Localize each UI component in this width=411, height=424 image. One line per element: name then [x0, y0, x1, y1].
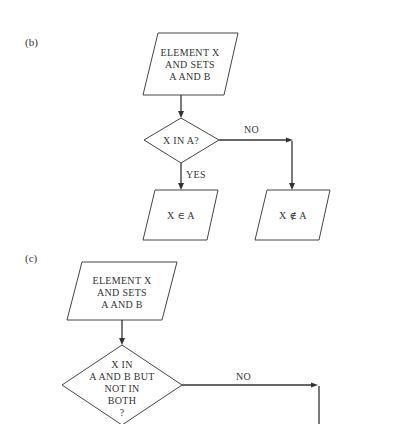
panel-b-yes-branch: YES [178, 163, 206, 190]
panel-c-decision-line-2: A AND B BUT [89, 371, 154, 382]
panel-c-input-line-2: AND SETS [97, 287, 147, 298]
panel-b-input-box: ELEMENT X AND SETS A AND B [143, 33, 238, 95]
arrowhead-icon [119, 338, 125, 345]
arrowhead-icon [311, 383, 318, 388]
panel-b-no-output: X ∉ A [255, 190, 330, 240]
panel-b-no-output-text: X ∉ A [279, 210, 307, 221]
panel-c-decision-line-4: BOTH [108, 395, 136, 406]
panel-b-input-line-1: ELEMENT X [161, 47, 220, 58]
panel-c-no-label: NO [236, 371, 251, 382]
panel-c-decision-line-1: X IN [111, 359, 132, 370]
panel-c-input-line-3: A AND B [101, 299, 143, 310]
arrowhead-icon [178, 183, 184, 190]
panel-c-no-branch: NO [182, 371, 319, 424]
panel-c-decision: X IN A AND B BUT NOT IN BOTH ? [62, 345, 182, 424]
panel-b-no-branch: NO [219, 124, 295, 190]
panel-b-decision-text: X IN A? [163, 135, 199, 146]
flowchart-canvas: (b) ELEMENT X AND SETS A AND B X IN A? N… [0, 0, 411, 424]
panel-b-yes-output: X ∈ A [143, 190, 218, 240]
panel-b-arrow-to-decision [178, 95, 184, 118]
panel-b-input-line-2: AND SETS [165, 59, 215, 70]
panel-b-yes-label: YES [186, 169, 206, 180]
arrowhead-icon [178, 111, 184, 118]
panel-c-decision-line-3: NOT IN [104, 383, 139, 394]
panel-b-no-label: NO [244, 124, 259, 135]
panel-b-input-line-3: A AND B [169, 71, 211, 82]
arrowhead-icon [289, 183, 295, 190]
panel-c-input-line-1: ELEMENT X [93, 275, 152, 286]
panel-c-arrow-to-decision [119, 320, 125, 345]
panel-c-input-box: ELEMENT X AND SETS A AND B [67, 262, 177, 320]
panel-c: (c) ELEMENT X AND SETS A AND B X IN A AN… [25, 252, 319, 424]
panel-b-label: (b) [25, 36, 38, 49]
panel-b: (b) ELEMENT X AND SETS A AND B X IN A? N… [25, 33, 330, 240]
panel-c-decision-line-5: ? [120, 407, 125, 418]
panel-c-label: (c) [25, 252, 38, 265]
panel-b-decision: X IN A? [144, 118, 219, 163]
panel-b-yes-output-text: X ∈ A [167, 210, 195, 221]
